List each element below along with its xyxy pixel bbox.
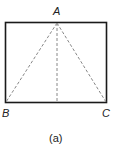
- diagram-canvas: [0, 0, 114, 148]
- vertex-label-c: C: [102, 108, 110, 119]
- dashed-line-a-c: [57, 23, 106, 102]
- dashed-line-a-b: [6, 23, 57, 102]
- figure-caption: (a): [49, 133, 62, 144]
- vertex-label-a: A: [53, 6, 60, 17]
- vertex-label-b: B: [2, 108, 9, 119]
- rectangle: [6, 23, 107, 103]
